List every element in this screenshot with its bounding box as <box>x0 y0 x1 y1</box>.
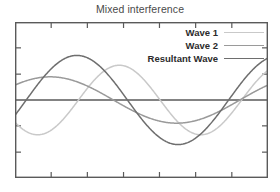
chart-legend: Wave 1 Wave 2 Resultant Wave <box>128 26 264 65</box>
chart-figure: Mixed interference Wave 1 Wave 2 Resulta… <box>0 0 280 192</box>
legend-item-wave-1: Wave 1 <box>128 26 264 39</box>
legend-label-resultant-wave: Resultant Wave <box>148 53 218 64</box>
legend-swatch-wave-2 <box>224 45 264 46</box>
legend-swatch-resultant-wave <box>224 58 264 59</box>
legend-label-wave-1: Wave 1 <box>186 27 218 38</box>
legend-item-resultant-wave: Resultant Wave <box>128 52 264 65</box>
page-title: Mixed interference <box>0 3 280 15</box>
legend-swatch-wave-1 <box>224 32 264 33</box>
legend-item-wave-2: Wave 2 <box>128 39 264 52</box>
legend-label-wave-2: Wave 2 <box>186 40 218 51</box>
